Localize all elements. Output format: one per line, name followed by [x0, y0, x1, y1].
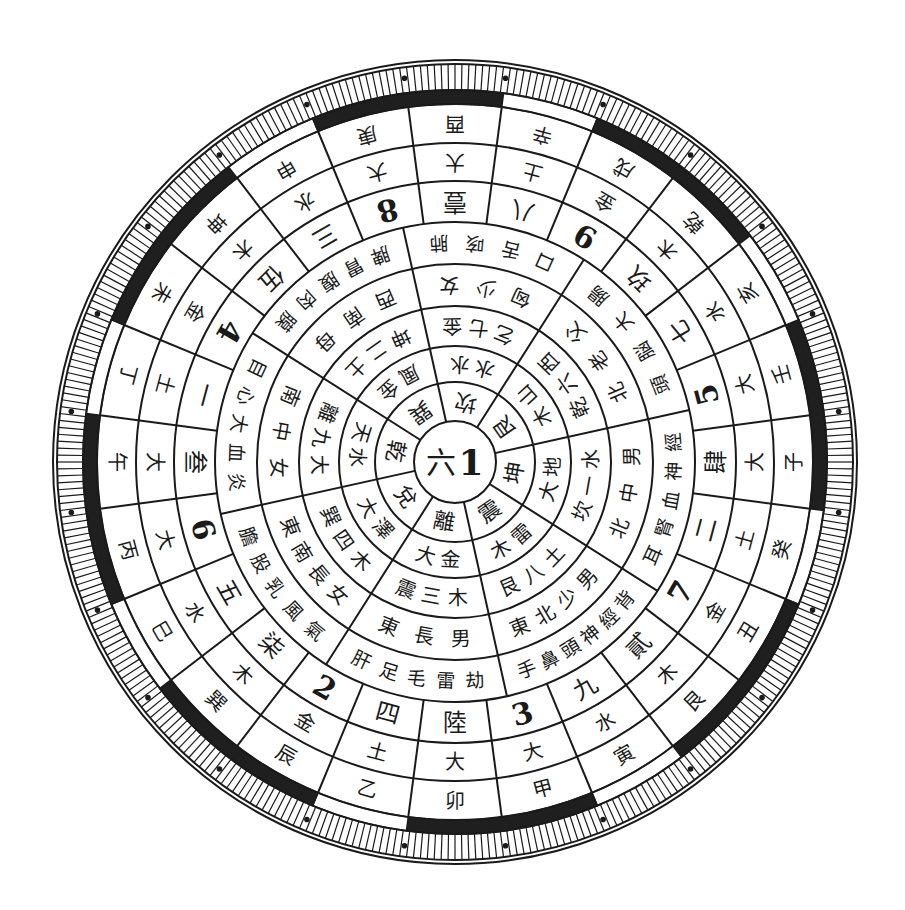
- band-segment: [229, 118, 318, 178]
- degree-tick: [817, 546, 842, 552]
- degree-tick: [79, 583, 104, 591]
- degree-tick: [150, 206, 170, 223]
- degree-tick: [718, 181, 736, 199]
- degree-tick: [110, 648, 133, 661]
- ring4-label: 女: [266, 458, 291, 479]
- outer-element: 金: [590, 187, 619, 218]
- degree-tick: [821, 393, 847, 398]
- degree-tick: [763, 670, 785, 685]
- ring5-label: 足: [376, 657, 401, 684]
- degree-tick: [826, 481, 852, 482]
- degree-tick: [62, 400, 88, 404]
- outer-divider: [693, 493, 810, 508]
- outer-element: 水: [590, 706, 619, 737]
- ring5-label: 大: [227, 413, 252, 436]
- ring4-label: 中: [616, 481, 643, 505]
- dot-marker-icon: [503, 76, 509, 82]
- degree-tick: [539, 74, 545, 99]
- ring4-label: 西: [372, 284, 400, 314]
- outer-branch: 戌: [610, 153, 639, 184]
- degree-tick: [630, 111, 642, 134]
- degree-tick: [819, 379, 844, 384]
- degree-tick: [500, 67, 503, 93]
- degree-tick: [513, 829, 517, 855]
- degree-tick: [256, 117, 269, 140]
- outer-divider: [486, 107, 501, 224]
- outer-element: 大: [143, 452, 167, 472]
- degree-tick: [756, 228, 777, 243]
- dot-marker-icon: [69, 409, 75, 415]
- ring4-label: 南: [276, 382, 306, 410]
- degree-tick: [74, 346, 99, 354]
- outer-element: 水: [290, 187, 319, 218]
- degree-tick: [221, 763, 236, 784]
- ring5-label: 毛: [406, 665, 429, 690]
- degree-tick: [824, 413, 850, 416]
- degree-tick: [647, 781, 660, 803]
- degree-tick: [232, 132, 247, 154]
- ring4-label: 男: [451, 627, 472, 652]
- degree-tick: [58, 441, 84, 442]
- ring2-label: 天: [347, 419, 376, 445]
- ring3-label: 一: [575, 474, 602, 498]
- inner-divider: [464, 502, 507, 696]
- degree-tick: [319, 812, 328, 836]
- ring5-label: 胃: [341, 253, 368, 281]
- ring3-label: 九: [308, 426, 335, 450]
- ring5-label: 肝: [348, 646, 375, 674]
- ring4-label: 母: [310, 326, 341, 357]
- ring5-label: 經: [661, 432, 685, 453]
- ring3-label: 金: [442, 314, 463, 338]
- ring5-label: 脳: [630, 338, 659, 365]
- outer-number: 柒: [252, 628, 289, 665]
- outer-element: 大: [365, 158, 391, 186]
- ring5-label: 血: [225, 443, 248, 463]
- degree-tick: [71, 558, 96, 565]
- dot-marker-icon: [69, 510, 75, 516]
- ring5-label: 雷: [436, 669, 456, 692]
- degree-tick: [783, 637, 806, 649]
- degree-tick: [723, 186, 742, 204]
- degree-tick: [169, 186, 188, 204]
- ring3-label: 木: [346, 545, 377, 576]
- degree-tick: [826, 427, 852, 429]
- degree-tick: [494, 832, 497, 858]
- ring4-label: 少: [552, 583, 583, 614]
- ring2-label: 山: [512, 380, 543, 411]
- outer-element: 木: [652, 659, 683, 690]
- degree-tick: [821, 527, 847, 532]
- outer-divider: [486, 700, 501, 817]
- outer-branch: 丙: [114, 537, 142, 563]
- degree-tick: [345, 820, 352, 845]
- ring2-label: 大: [534, 478, 563, 504]
- degree-tick: [663, 770, 678, 792]
- dot-marker-icon: [95, 311, 101, 317]
- outer-element: 金: [290, 706, 319, 737]
- degree-tick: [133, 228, 154, 243]
- ring4-label: 男: [572, 564, 603, 595]
- ring2-label: 地: [540, 456, 565, 477]
- outer-element: 大: [731, 372, 759, 398]
- dot-marker-icon: [810, 311, 816, 317]
- dot-marker-icon: [836, 409, 842, 415]
- degree-tick: [379, 827, 384, 853]
- degree-tick: [823, 514, 849, 518]
- ring4-label: 東: [375, 611, 403, 641]
- band-segment: [739, 236, 799, 325]
- degree-tick: [72, 352, 97, 359]
- degree-tick: [474, 833, 475, 859]
- degree-tick: [184, 734, 202, 753]
- outer-number: 五: [211, 575, 247, 610]
- degree-tick: [647, 121, 660, 143]
- ring4-label: 女: [438, 273, 459, 298]
- degree-tick: [325, 814, 333, 839]
- ring5-label: 肉: [292, 286, 321, 315]
- degree-tick: [770, 251, 792, 265]
- degree-tick: [76, 577, 101, 585]
- degree-tick: [238, 774, 252, 796]
- degree-tick: [379, 71, 384, 97]
- outer-branch: 壬: [768, 362, 796, 388]
- degree-tick: [668, 767, 683, 788]
- degree-tick: [74, 571, 99, 579]
- outer-branch: 辛: [530, 121, 556, 149]
